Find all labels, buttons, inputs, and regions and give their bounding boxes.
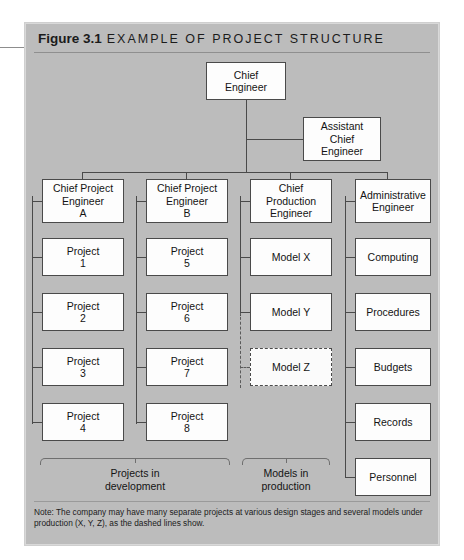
node-col3-head-label: ChiefProductionEngineer xyxy=(253,182,329,219)
node-chief-engineer-label: ChiefEngineer xyxy=(209,69,283,94)
connector-col2-stub-1 xyxy=(136,312,146,313)
node-col2-item-3-label: Project8 xyxy=(149,410,225,435)
connector-col1-stub-1 xyxy=(32,312,42,313)
connector-col4-spine xyxy=(345,196,346,477)
connector-col1-stub-2 xyxy=(32,367,42,368)
figure-note: Note: The company may have many separate… xyxy=(34,507,430,529)
brace-projects-label: Projects indevelopment xyxy=(70,467,200,492)
node-col1-item-0: Project1 xyxy=(42,238,124,276)
node-col1-item-1: Project2 xyxy=(42,293,124,331)
node-assistant-chief-engineer-label: AssistantChiefEngineer xyxy=(306,120,378,157)
brace-projects-tick xyxy=(135,459,136,463)
node-col1-item-0-label: Project1 xyxy=(45,245,121,270)
connector-col1-stub-head xyxy=(32,201,42,202)
connector-chief-to-assistant xyxy=(246,139,304,140)
node-col4-head: AdministrativeEngineer xyxy=(355,179,431,223)
connector-bus-drop-col1 xyxy=(82,172,83,179)
connector-col3-spine-dashed xyxy=(240,312,241,388)
connector-col2-stub-3 xyxy=(136,422,146,423)
connector-col3-stub-0 xyxy=(240,257,250,258)
node-col1-head-label: Chief ProjectEngineerA xyxy=(45,182,121,219)
node-col2-head-label: Chief ProjectEngineerB xyxy=(149,182,225,219)
node-col2-item-3: Project8 xyxy=(146,403,228,441)
node-col4-item-2-label: Budgets xyxy=(358,361,428,373)
node-col2-head: Chief ProjectEngineerB xyxy=(146,179,228,223)
connector-bus-drop-col4 xyxy=(387,172,388,179)
node-col4-item-3-label: Records xyxy=(358,416,428,428)
node-col2-item-0: Project5 xyxy=(146,238,228,276)
node-col3-item-1: Model Y xyxy=(250,293,332,331)
connector-col1-spine xyxy=(32,196,33,424)
node-col2-item-2: Project7 xyxy=(146,348,228,386)
connector-col4-stub-2 xyxy=(345,367,355,368)
figure-caption: EXAMPLE OF PROJECT STRUCTURE xyxy=(107,32,385,46)
note-rule xyxy=(34,501,430,502)
node-col2-item-1: Project6 xyxy=(146,293,228,331)
node-col4-item-2: Budgets xyxy=(355,348,431,386)
title-underline xyxy=(34,52,430,53)
node-col1-item-1-label: Project2 xyxy=(45,300,121,325)
brace-models-label: Models inproduction xyxy=(226,467,346,492)
node-col1-item-2-label: Project3 xyxy=(45,355,121,380)
connector-col3-spine xyxy=(240,196,241,316)
connector-col3-stub-1 xyxy=(240,312,250,313)
connector-chief-down xyxy=(246,100,247,172)
connector-col2-stub-2 xyxy=(136,367,146,368)
node-col1-head: Chief ProjectEngineerA xyxy=(42,179,124,223)
node-col4-item-1: Procedures xyxy=(355,293,431,331)
connector-col2-stub-head xyxy=(136,201,146,202)
connector-col4-stub-1 xyxy=(345,312,355,313)
connector-col1-stub-0 xyxy=(32,257,42,258)
node-col4-item-3: Records xyxy=(355,403,431,441)
figure-number: Figure 3.1 xyxy=(38,31,102,46)
node-col3-item-0: Model X xyxy=(250,238,332,276)
connector-col4-stub-head xyxy=(345,201,355,202)
node-col1-item-2: Project3 xyxy=(42,348,124,386)
connector-bus-drop-col3 xyxy=(290,172,291,179)
figure-title: Figure 3.1EXAMPLE OF PROJECT STRUCTURE xyxy=(38,31,385,47)
connector-col2-spine xyxy=(136,196,137,424)
node-col2-item-1-label: Project6 xyxy=(149,300,225,325)
node-col4-item-0: Computing xyxy=(355,238,431,276)
node-assistant-chief-engineer: AssistantChiefEngineer xyxy=(303,117,381,161)
node-col3-item-2: Model Z xyxy=(250,348,332,386)
connector-col2-stub-0 xyxy=(136,257,146,258)
node-col4-item-4-label: Personnel xyxy=(358,471,428,483)
connector-col4-stub-3 xyxy=(345,422,355,423)
connector-col4-stub-0 xyxy=(345,257,355,258)
node-col4-item-0-label: Computing xyxy=(358,251,428,263)
node-col1-item-3-label: Project4 xyxy=(45,410,121,435)
node-col3-head: ChiefProductionEngineer xyxy=(250,179,332,223)
node-col2-item-0-label: Project5 xyxy=(149,245,225,270)
connector-col3-stub-2 xyxy=(240,367,250,368)
connector-bus-drop-col2 xyxy=(186,172,187,179)
connector-bus xyxy=(82,172,387,173)
connector-col1-stub-3 xyxy=(32,422,42,423)
node-col4-head-label: AdministrativeEngineer xyxy=(358,189,428,214)
node-col1-item-3: Project4 xyxy=(42,403,124,441)
node-col3-item-2-label: Model Z xyxy=(253,361,329,373)
node-col3-item-0-label: Model X xyxy=(253,251,329,263)
connector-col4-stub-4 xyxy=(345,477,355,478)
node-col4-item-4: Personnel xyxy=(355,458,431,496)
node-chief-engineer: ChiefEngineer xyxy=(206,62,286,100)
figure-container: Figure 3.1EXAMPLE OF PROJECT STRUCTURE C… xyxy=(0,0,464,560)
brace-models-tick xyxy=(286,459,287,463)
node-col2-item-2-label: Project7 xyxy=(149,355,225,380)
connector-col3-stub-head xyxy=(240,201,250,202)
node-col3-item-1-label: Model Y xyxy=(253,306,329,318)
node-col4-item-1-label: Procedures xyxy=(358,306,428,318)
